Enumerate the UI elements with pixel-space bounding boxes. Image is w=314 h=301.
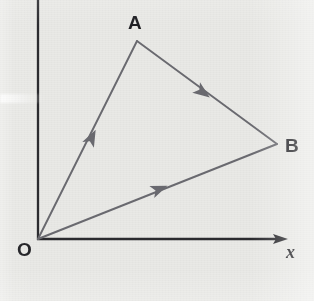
diagram-canvas [0, 0, 314, 301]
axes-group [37, 0, 288, 244]
vector-ab-arrow-icon [192, 82, 213, 103]
vector-ab-line [137, 41, 277, 144]
origin-label-o: O [17, 240, 32, 259]
vector-triangle-figure: A B O x [0, 0, 314, 301]
vectors-group [38, 41, 277, 239]
point-label-b: B [285, 136, 299, 155]
vector-arrowheads-group [82, 82, 213, 198]
point-label-a: A [128, 13, 142, 32]
x-axis-label: x [286, 243, 295, 261]
vector-ob-arrow-icon [149, 180, 170, 198]
